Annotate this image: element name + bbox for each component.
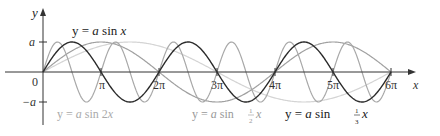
label-sin-third-x: y = a sin 1 3 x [285, 106, 368, 126]
x-tick-label-1: π [99, 78, 105, 92]
x-tick-label-6: 6π [385, 78, 397, 92]
svg-text:3: 3 [355, 118, 359, 126]
svg-text:2: 2 [249, 117, 253, 125]
svg-text:x: x [255, 107, 262, 121]
y-tick-label-a: a [29, 35, 35, 49]
x-axis-arrow-icon [408, 69, 416, 75]
y-tick-label-neg-a: −a [22, 95, 36, 109]
svg-text:y = a sin: y = a sin [285, 106, 331, 121]
x-tick-label-4: 4π [269, 78, 281, 92]
sine-graph: y x 0 a −a π2π3π4π5π6π y = a sin x y = a… [0, 0, 440, 136]
x-tick-label-5: 5π [327, 78, 339, 92]
svg-text:x: x [361, 106, 368, 121]
x-tick-label-2: 2π [153, 78, 165, 92]
label-sin-2x: y = a sin 2x [57, 107, 114, 121]
svg-text:1: 1 [355, 107, 359, 115]
y-axis-arrow-icon [40, 8, 46, 16]
x-tick-label-3: 3π [211, 78, 223, 92]
origin-label: 0 [32, 75, 38, 89]
label-sin-half-x: y = a sin 1 2 x [192, 107, 262, 125]
x-axis-label: x [412, 78, 419, 92]
svg-text:y = a sin: y = a sin [192, 107, 234, 121]
y-axis-label: y [30, 5, 38, 20]
label-sin-x: y = a sin x [72, 23, 127, 38]
svg-text:1: 1 [249, 107, 253, 115]
